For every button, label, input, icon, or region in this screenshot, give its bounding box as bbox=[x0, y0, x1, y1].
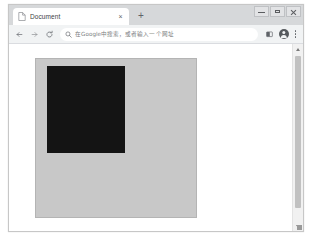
reload-icon[interactable] bbox=[42, 27, 57, 42]
black-inner-square bbox=[47, 66, 125, 153]
address-bar[interactable]: 在Google中搜索，或者输入一个网址 bbox=[60, 28, 258, 41]
new-tab-button[interactable]: + bbox=[133, 8, 149, 24]
browser-toolbar: 在Google中搜索，或者输入一个网址 bbox=[9, 25, 303, 44]
profile-avatar-icon[interactable] bbox=[279, 29, 289, 39]
back-arrow-icon[interactable] bbox=[12, 27, 27, 42]
tab-strip: Document × + bbox=[9, 5, 303, 25]
close-window-button[interactable] bbox=[286, 6, 301, 17]
tab-title: Document bbox=[30, 12, 116, 21]
page-content bbox=[9, 44, 292, 231]
search-icon bbox=[65, 31, 72, 38]
maximize-button[interactable] bbox=[270, 6, 285, 17]
media-cast-icon[interactable] bbox=[262, 27, 277, 42]
window-controls bbox=[254, 6, 301, 17]
scrollbar-thumb[interactable] bbox=[295, 56, 301, 208]
browser-window: Document × + bbox=[8, 4, 304, 232]
page-viewport bbox=[9, 44, 303, 231]
document-icon bbox=[18, 12, 26, 21]
window-resize-handle[interactable] bbox=[297, 225, 302, 230]
gray-outer-square bbox=[35, 58, 197, 218]
close-icon[interactable]: × bbox=[116, 12, 125, 21]
browser-tab-document[interactable]: Document × bbox=[13, 8, 129, 25]
forward-arrow-icon[interactable] bbox=[27, 27, 42, 42]
three-dot-menu-icon[interactable] bbox=[291, 28, 300, 41]
vertical-scrollbar[interactable] bbox=[292, 44, 303, 231]
minimize-button[interactable] bbox=[254, 6, 269, 17]
scroll-up-arrow-icon[interactable] bbox=[293, 44, 303, 54]
address-bar-placeholder: 在Google中搜索，或者输入一个网址 bbox=[75, 30, 174, 39]
